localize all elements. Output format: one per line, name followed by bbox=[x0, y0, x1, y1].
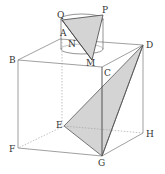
label-b: B bbox=[9, 55, 16, 65]
label-a: A bbox=[59, 28, 67, 38]
label-n: N bbox=[68, 39, 76, 49]
geometry-figure: Q P A N M B C D E F G H bbox=[0, 0, 165, 174]
edge-fg bbox=[18, 148, 102, 156]
label-g: G bbox=[98, 158, 105, 168]
cone bbox=[62, 15, 103, 60]
label-f: F bbox=[9, 144, 15, 154]
label-h: H bbox=[146, 129, 154, 139]
label-e: E bbox=[56, 120, 63, 130]
label-q: Q bbox=[57, 10, 64, 20]
cylinder-bottom bbox=[61, 49, 103, 54]
label-c: C bbox=[104, 68, 111, 78]
label-d: D bbox=[146, 40, 153, 50]
label-p: P bbox=[102, 5, 108, 15]
label-m: M bbox=[86, 58, 95, 68]
